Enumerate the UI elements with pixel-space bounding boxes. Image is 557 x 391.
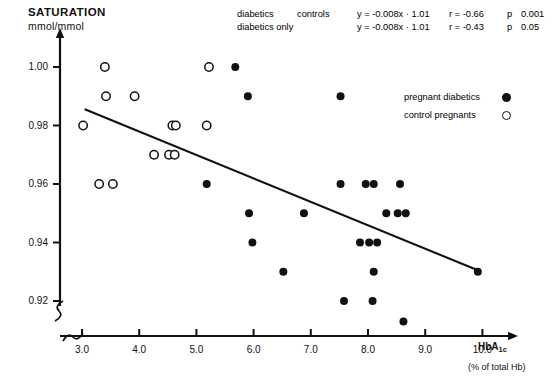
data-point-diabetic [244,92,252,100]
data-point-diabetic [340,297,348,305]
data-point-diabetic [474,268,482,276]
data-point-diabetic [370,180,378,188]
x-tick-label: 9.0 [408,344,442,355]
data-point-control [79,121,87,129]
x-tick-label: 6.0 [237,344,271,355]
plot-area [0,0,557,391]
x-tick-label: 4.0 [122,344,156,355]
y-tick-label: 1.00 [12,61,48,72]
series-pregnant-diabetics [203,63,482,325]
data-point-diabetic [369,297,377,305]
data-point-diabetic [245,209,253,217]
data-point-diabetic [248,239,256,247]
x-tick-label: 5.0 [179,344,213,355]
x-tick-label: 3.0 [65,344,99,355]
data-point-diabetic [300,209,308,217]
y-tick-label: 0.98 [12,120,48,131]
data-point-diabetic [396,180,404,188]
data-point-diabetic [279,268,287,276]
scatter-plot-figure: SATURATION mmol/mmol diabetics controls … [0,0,557,391]
x-axis-arrow-icon [508,332,518,340]
y-tick-label: 0.92 [12,295,48,306]
data-point-diabetic [231,63,239,71]
data-point-diabetic [203,180,211,188]
x-tick-label: 8.0 [351,344,385,355]
regression-line [85,109,477,270]
x-axis-break-icon [63,333,83,341]
data-point-diabetic [370,268,378,276]
data-point-control [101,63,109,71]
data-point-control [170,151,178,159]
data-point-control [95,180,103,188]
y-axis-arrow-icon [56,28,64,38]
y-tick-label: 0.96 [12,178,48,189]
data-point-diabetic [382,209,390,217]
data-point-diabetic [399,317,407,325]
data-point-control [109,180,117,188]
data-point-diabetic [365,239,373,247]
data-point-control [102,92,110,100]
data-point-control [203,121,211,129]
data-point-control [130,92,138,100]
data-point-diabetic [394,209,402,217]
y-tick-label: 0.94 [12,237,48,248]
series-control-pregnants [79,63,213,188]
data-point-diabetic [362,180,370,188]
data-point-diabetic [356,239,364,247]
data-point-control [172,121,180,129]
y-axis-break-icon [55,301,63,321]
data-point-diabetic [337,180,345,188]
data-point-diabetic [373,239,381,247]
data-point-control [205,63,213,71]
data-point-control [150,151,158,159]
data-point-diabetic [337,92,345,100]
x-tick-label: 7.0 [294,344,328,355]
data-point-diabetic [402,209,410,217]
x-tick-label: 10.0 [465,344,499,355]
